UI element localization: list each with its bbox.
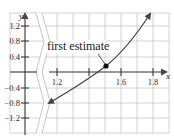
x-tick-label: 1.8 [148, 77, 159, 87]
function-curve [49, 14, 150, 103]
axes [10, 14, 166, 135]
annotation-label: first estimate [47, 39, 109, 53]
y-tick-label: −0.4 [5, 83, 21, 93]
y-tick-label: 0.4 [9, 52, 20, 62]
y-tick-label: −0.8 [5, 98, 20, 108]
annotation-leader [98, 54, 105, 64]
x-axis-label: x [165, 71, 170, 81]
x-tick-label: 1.6 [116, 77, 127, 87]
y-tick-label: 1.2 [9, 21, 20, 31]
axis-break [36, 13, 50, 133]
chart: 1.2 0.8 0.4 −0.4 −0.8 −1.2 1.2 1.6 1.8 y… [0, 0, 174, 138]
y-tick-label: 0.8 [9, 36, 20, 46]
y-axis-label: y [18, 11, 23, 21]
y-tick-label: −1.2 [5, 113, 20, 123]
first-estimate-point [103, 63, 108, 68]
x-tick-label: 1.2 [52, 77, 63, 87]
